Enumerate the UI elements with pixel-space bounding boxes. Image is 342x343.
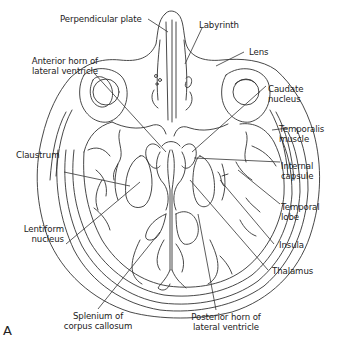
leader-thalamus <box>190 180 268 270</box>
leader-temporal-lobe <box>238 170 280 204</box>
lentiform-nucleus-right <box>193 156 215 207</box>
skull-inner-outline <box>57 128 308 311</box>
label-perpendicular-plate: Perpendicular plate <box>60 14 142 24</box>
label-claustrum: Claustrum <box>16 150 59 160</box>
label-lens: Lens <box>249 47 268 57</box>
label-insula: Insula <box>279 240 304 250</box>
label-lentiform-nucleus: Lentiform nucleus <box>14 224 64 244</box>
temporal-lobe-sulci <box>236 162 260 236</box>
label-anterior-horn: Anterior horn of lateral ventricle <box>18 56 98 76</box>
lentiform-nucleus-left <box>126 156 152 208</box>
right-orbit <box>222 69 270 123</box>
leader-posterior-horn <box>198 214 216 310</box>
leader-splenium <box>98 232 160 309</box>
anatomy-figure: Perpendicular plate Labyrinth Lens Anter… <box>0 0 342 343</box>
label-thalamus: Thalamus <box>272 266 313 276</box>
leader-claustrum <box>64 172 130 186</box>
panel-letter: A <box>3 323 12 338</box>
leader-insula <box>220 180 274 244</box>
leader-lentiform <box>66 182 140 244</box>
label-labyrinth: Labyrinth <box>199 20 239 30</box>
left-orbit <box>80 69 127 123</box>
label-splenium: Splenium of corpus callosum <box>50 311 146 331</box>
anterior-horn <box>157 152 186 210</box>
label-posterior-horn: Posterior horn of lateral ventricle <box>176 312 276 332</box>
septum <box>162 142 180 147</box>
label-caudate-nucleus: Caudate nucleus <box>268 84 303 104</box>
lens <box>235 80 256 85</box>
leader-labyrinth <box>185 28 202 64</box>
leader-caudate <box>192 86 266 152</box>
left-eye-globe <box>93 79 119 105</box>
label-temporalis-muscle: Temporalis muscle <box>279 124 324 144</box>
label-internal-capsule: Internal capsule <box>281 161 313 181</box>
leader-anterior-horn <box>94 73 166 152</box>
thalamus <box>176 212 198 245</box>
nasal-septum <box>166 20 176 122</box>
label-temporal-lobe: Temporal lobe <box>281 202 320 222</box>
